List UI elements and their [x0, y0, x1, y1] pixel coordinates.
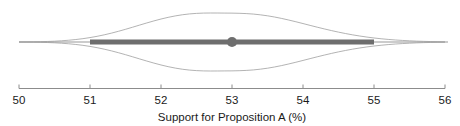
x-axis-ticks — [19, 85, 445, 89]
x-axis-tick-label: 53 — [226, 94, 239, 106]
x-axis-group: 50515253545556 — [13, 85, 452, 107]
x-axis-tick-label: 51 — [84, 94, 97, 106]
x-axis-tick-label: 50 — [13, 94, 26, 106]
x-axis-tick-label: 52 — [155, 94, 168, 106]
point-estimate-dot — [227, 37, 237, 47]
eye-plot-figure: 50515253545556 Support for Proposition A… — [0, 0, 460, 126]
plot-canvas: 50515253545556 Support for Proposition A… — [0, 0, 460, 126]
x-axis-title: Support for Proposition A (%) — [158, 111, 306, 123]
x-axis-tick-label: 54 — [297, 94, 310, 106]
x-axis-tick-label: 55 — [368, 94, 381, 106]
x-axis-tick-labels: 50515253545556 — [13, 94, 452, 106]
x-axis-tick-label: 56 — [439, 94, 452, 106]
